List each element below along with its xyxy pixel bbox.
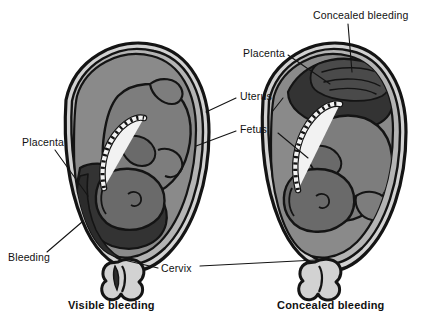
label-fetus: Fetus [240,124,267,135]
leader-uterus-to-left [206,98,236,112]
cervix-left [102,259,144,300]
leader-bleeding [47,222,82,252]
label-placenta-left: Placenta [22,137,64,148]
leader-cervix-to-right [200,260,316,266]
label-placenta-right: Placenta [243,48,285,59]
antepartum-haemorrhage-diagram [0,0,426,330]
figure-root: Placenta Bleeding Uterus Fetus Placenta … [0,0,426,330]
caption-concealed-bleeding: Concealed bleeding [277,300,385,311]
label-concealed-bleeding: Concealed bleeding [313,10,409,21]
caption-visible-bleeding: Visible bleeding [68,300,155,311]
label-uterus: Uterus [240,91,272,102]
label-bleeding: Bleeding [8,252,50,263]
label-cervix: Cervix [161,263,192,274]
cervix-right [299,259,341,300]
